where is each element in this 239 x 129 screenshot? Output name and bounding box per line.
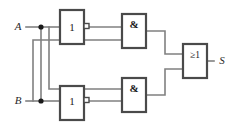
output-label-s: S: [219, 54, 225, 66]
logic-circuit-diagram: 1 1 & & ≥1 A B S: [0, 0, 239, 129]
gate-not-b-inversion-bubble: [84, 98, 89, 103]
circuit-canvas: 1 1 & & ≥1 A B S: [0, 0, 239, 129]
gate-and-top[interactable]: &: [122, 14, 146, 48]
gate-or-output[interactable]: ≥1: [183, 44, 207, 78]
gate-and-bottom-label: &: [129, 82, 138, 94]
input-label-b: B: [15, 94, 22, 106]
gate-not-a-label: 1: [69, 21, 75, 33]
gate-not-b[interactable]: 1: [60, 86, 89, 120]
wire-andbot-to-or: [146, 69, 183, 95]
junction-dot-b: [38, 98, 43, 103]
wire-andtop-to-or: [146, 31, 183, 54]
gate-not-b-label: 1: [69, 95, 75, 107]
gate-or-output-label: ≥1: [190, 50, 200, 60]
gate-and-top-label: &: [129, 18, 138, 30]
junction-dot-a: [38, 24, 43, 29]
gate-and-bottom[interactable]: &: [122, 78, 146, 112]
gate-not-a[interactable]: 1: [60, 10, 89, 44]
gate-or-output-body: [183, 44, 207, 78]
input-label-a: A: [14, 20, 22, 32]
gate-not-a-inversion-bubble: [84, 24, 89, 29]
